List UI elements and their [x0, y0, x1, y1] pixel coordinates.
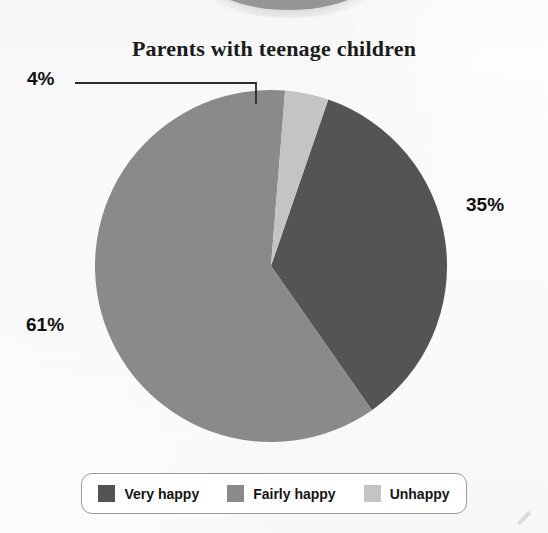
pie-chart-svg — [95, 90, 447, 442]
page-corner-watermark — [515, 508, 535, 526]
chart-title: Parents with teenage children — [0, 36, 548, 62]
very-happy-percent-label: 35% — [466, 194, 504, 216]
legend-swatch-fairly-happy — [227, 485, 244, 502]
chart-legend: Very happy Fairly happy Unhappy — [81, 473, 467, 514]
legend-item-fairly-happy[interactable]: Fairly happy — [213, 485, 349, 502]
legend-label-very-happy: Very happy — [124, 486, 199, 502]
unhappy-percent-label: 4% — [27, 68, 54, 90]
chart-canvas: Parents with teenage children 4% 35% 61%… — [0, 0, 548, 533]
fairly-happy-percent-label: 61% — [26, 314, 64, 336]
legend-label-unhappy: Unhappy — [390, 486, 450, 502]
legend-item-very-happy[interactable]: Very happy — [84, 485, 213, 502]
legend-swatch-very-happy — [98, 485, 115, 502]
legend-item-unhappy[interactable]: Unhappy — [350, 485, 464, 502]
pie-chart — [95, 90, 447, 442]
legend-label-fairly-happy: Fairly happy — [253, 486, 335, 502]
legend-swatch-unhappy — [364, 485, 381, 502]
